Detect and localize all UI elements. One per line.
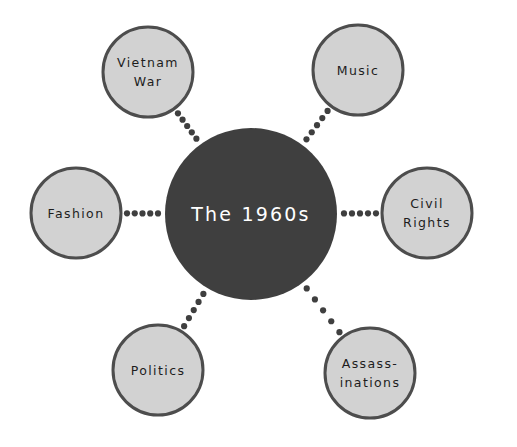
- connector-civil-rights: [341, 210, 379, 216]
- node-civil-rights[interactable]: CivilRights: [382, 168, 472, 258]
- node-label-vietnam-war: War: [134, 74, 163, 89]
- node-politics[interactable]: Politics: [113, 325, 203, 415]
- connector-fashion: [124, 210, 161, 216]
- node-music[interactable]: Music: [313, 25, 403, 115]
- node-assassinations[interactable]: Assass-inations: [325, 328, 415, 418]
- node-circle-assassinations[interactable]: [325, 328, 415, 418]
- center-node-group[interactable]: The 1960s: [165, 128, 337, 300]
- connector-music: [303, 108, 330, 143]
- node-label-civil-rights: Civil: [410, 196, 444, 211]
- node-circle-vietnam-war[interactable]: [103, 27, 193, 117]
- connector-politics: [181, 291, 206, 330]
- mind-map-diagram: The 1960s VietnamWarMusicCivilRightsAssa…: [0, 0, 517, 447]
- node-label-politics: Politics: [131, 363, 186, 378]
- center-label: The 1960s: [190, 203, 310, 225]
- node-label-civil-rights: Rights: [403, 215, 451, 230]
- node-label-assassinations: inations: [340, 375, 401, 390]
- node-label-assassinations: Assass-: [342, 356, 399, 371]
- connector-assassinations: [304, 285, 343, 335]
- connector-vietnam-war: [175, 110, 200, 142]
- node-label-music: Music: [337, 63, 380, 78]
- node-fashion[interactable]: Fashion: [31, 168, 121, 258]
- node-circle-civil-rights[interactable]: [382, 168, 472, 258]
- node-label-vietnam-war: Vietnam: [117, 55, 179, 70]
- diagram-canvas: The 1960s VietnamWarMusicCivilRightsAssa…: [0, 0, 517, 447]
- node-vietnam-war[interactable]: VietnamWar: [103, 27, 193, 117]
- node-label-fashion: Fashion: [48, 206, 105, 221]
